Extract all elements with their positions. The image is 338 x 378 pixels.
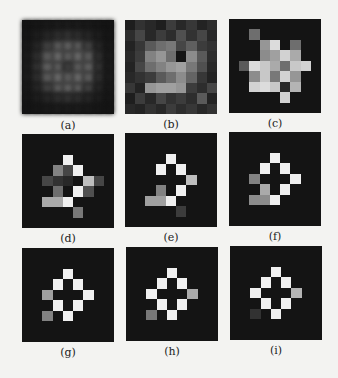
pixel-cell bbox=[42, 62, 52, 72]
pixel-cell bbox=[42, 83, 52, 93]
pixel-cell bbox=[186, 51, 196, 61]
pixel-cell bbox=[53, 155, 63, 165]
pixel-cell bbox=[63, 41, 73, 51]
pixel-cell bbox=[53, 311, 63, 321]
pixel-cell bbox=[22, 134, 32, 144]
pixel-cell bbox=[250, 319, 260, 329]
panel-label-f: (f) bbox=[229, 230, 321, 243]
pixel-cell bbox=[166, 41, 176, 51]
pixel-cell bbox=[197, 133, 207, 143]
pixel-cell bbox=[104, 104, 114, 114]
pixel-cell bbox=[197, 185, 207, 195]
pixel-cell bbox=[104, 51, 114, 61]
pixel-cell bbox=[94, 300, 104, 310]
pixel-cell bbox=[186, 143, 196, 153]
pixel-cell bbox=[186, 154, 196, 164]
pixel-cell bbox=[301, 184, 311, 194]
pixel-cell bbox=[301, 174, 311, 184]
pixel-cell bbox=[280, 29, 290, 39]
pixel-cell bbox=[207, 41, 217, 51]
pixel-cell bbox=[63, 332, 73, 342]
pixel-cell bbox=[146, 331, 156, 341]
pixel-cell bbox=[22, 144, 32, 154]
pixel-cell bbox=[230, 330, 240, 340]
pixel-cell bbox=[73, 248, 83, 258]
pixel-cell bbox=[260, 29, 270, 39]
pixel-cell bbox=[208, 331, 218, 341]
pixel-cell bbox=[312, 246, 322, 256]
pixel-cell bbox=[32, 176, 42, 186]
pixel-cell bbox=[187, 257, 197, 267]
pixel-cell bbox=[63, 290, 73, 300]
pixel-cell bbox=[229, 71, 239, 81]
pixel-cell bbox=[301, 92, 311, 102]
pixel-cell bbox=[260, 71, 270, 81]
pixel-cell bbox=[145, 143, 155, 153]
pixel-cell bbox=[42, 41, 52, 51]
pixel-cell bbox=[260, 184, 270, 194]
pixel-cell bbox=[281, 288, 291, 298]
pixel-cell bbox=[230, 319, 240, 329]
pixel-cell bbox=[135, 143, 145, 153]
pixel-cell bbox=[261, 267, 271, 277]
pixel-cell bbox=[22, 279, 32, 289]
pixel-cell bbox=[53, 20, 63, 30]
pixel-cell bbox=[73, 144, 83, 154]
pixel-cell bbox=[83, 176, 93, 186]
pixel-cell bbox=[176, 93, 186, 103]
pixel-cell bbox=[301, 71, 311, 81]
pixel-cell bbox=[280, 82, 290, 92]
pixel-cell bbox=[311, 29, 321, 39]
pixel-cell bbox=[260, 50, 270, 60]
pixel-cell bbox=[73, 20, 83, 30]
pixel-cell bbox=[53, 72, 63, 82]
pixel-cell bbox=[145, 196, 155, 206]
pixel-cell bbox=[260, 195, 270, 205]
pixel-cell bbox=[230, 267, 240, 277]
pixel-cell bbox=[290, 103, 300, 113]
pixel-cell bbox=[281, 246, 291, 256]
pixel-cell bbox=[291, 309, 301, 319]
pixel-cell bbox=[32, 51, 42, 61]
pixel-cell bbox=[145, 93, 155, 103]
pixel-cell bbox=[83, 144, 93, 154]
pixel-cell bbox=[311, 82, 321, 92]
pixel-cell bbox=[270, 153, 280, 163]
pixel-cell bbox=[239, 195, 249, 205]
pixel-cell bbox=[312, 267, 322, 277]
pixel-cell bbox=[177, 268, 187, 278]
pixel-cell bbox=[145, 175, 155, 185]
pixel-cell bbox=[22, 321, 32, 331]
pixel-cell bbox=[136, 268, 146, 278]
pixel-cell bbox=[83, 258, 93, 268]
pixel-cell bbox=[302, 319, 312, 329]
pixel-cell bbox=[42, 290, 52, 300]
pixel-cell bbox=[187, 268, 197, 278]
pixel-cell bbox=[104, 258, 114, 268]
pixel-cell bbox=[42, 269, 52, 279]
pixel-cell bbox=[207, 164, 217, 174]
pixel-cell bbox=[291, 319, 301, 329]
pixel-cell bbox=[208, 268, 218, 278]
pixel-cell bbox=[63, 155, 73, 165]
pixel-cell bbox=[239, 61, 249, 71]
pixel-cell bbox=[136, 278, 146, 288]
pixel-cell bbox=[311, 195, 321, 205]
pixel-cell bbox=[176, 62, 186, 72]
pixel-cell bbox=[126, 299, 136, 309]
pixel-cell bbox=[229, 153, 239, 163]
pixel-cell bbox=[290, 132, 300, 142]
image-panel-i bbox=[230, 246, 322, 340]
pixel-cell bbox=[312, 256, 322, 266]
pixel-cell bbox=[145, 30, 155, 40]
pixel-cell bbox=[94, 165, 104, 175]
pixel-cell bbox=[311, 174, 321, 184]
pixel-cell bbox=[229, 29, 239, 39]
pixel-cell bbox=[261, 288, 271, 298]
image-panel-b bbox=[125, 20, 217, 114]
pixel-cell bbox=[271, 256, 281, 266]
pixel-cell bbox=[270, 205, 280, 215]
pixel-cell bbox=[239, 29, 249, 39]
pixel-cell bbox=[94, 269, 104, 279]
pixel-cell bbox=[73, 83, 83, 93]
